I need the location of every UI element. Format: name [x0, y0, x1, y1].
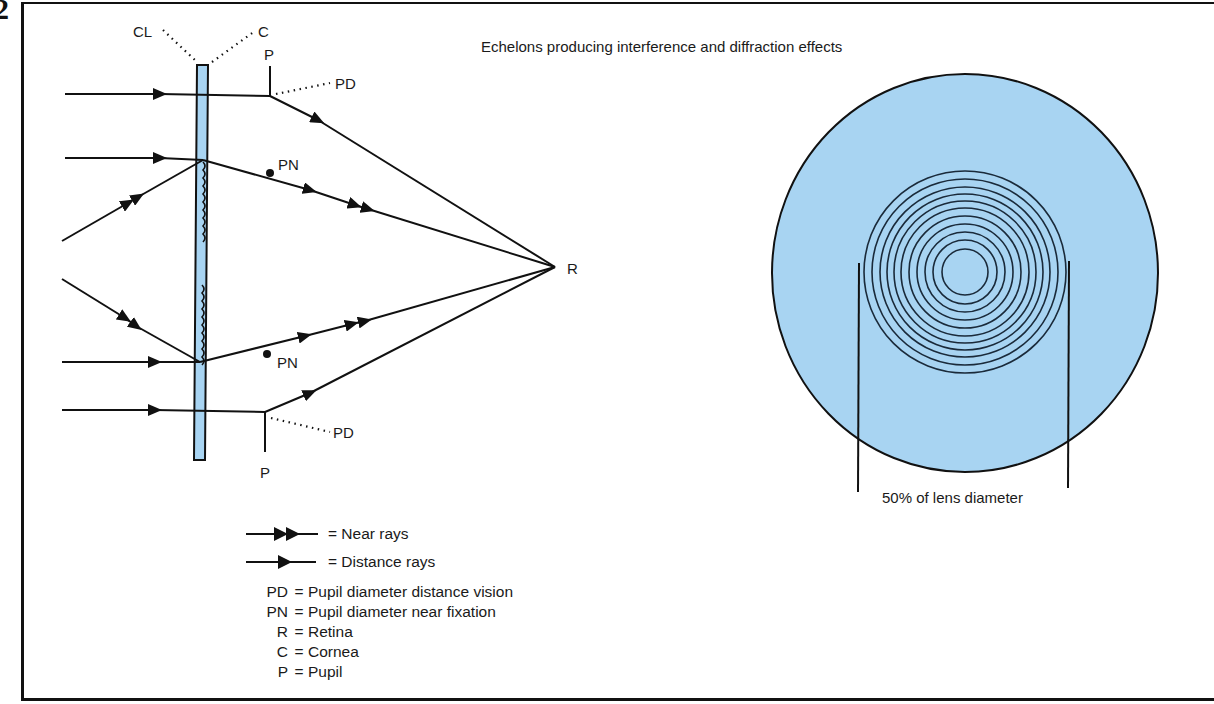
abbr-pd: PD = Pupil diameter distance vision: [246, 582, 513, 602]
label-retina: R: [567, 260, 578, 277]
abbr-pn: PN = Pupil diameter near fixation: [246, 602, 513, 622]
double-arrow-icon: [246, 527, 318, 541]
single-arrow-icon: [246, 555, 318, 569]
legend-near-rays: = Near rays: [246, 520, 513, 548]
legend-distance-rays: = Distance rays: [246, 548, 513, 576]
abbreviation-list: PD = Pupil diameter distance vision PN =…: [246, 582, 513, 682]
abbr-r: R = Retina: [246, 622, 513, 642]
figure-title: Echelons producing interference and diff…: [481, 38, 842, 55]
diameter-marker-left: [858, 263, 859, 492]
light-rays: [62, 94, 555, 412]
label-pupil-bottom: P: [260, 464, 270, 481]
lens-face: [772, 74, 1158, 492]
label-pd-top: PD: [335, 75, 356, 92]
legend: = Near rays = Distance rays PD = Pupil d…: [246, 520, 513, 682]
abbr-p: P = Pupil: [246, 662, 513, 682]
label-pn-bottom: PN: [277, 354, 298, 371]
label-pd-bottom: PD: [333, 424, 354, 441]
label-cl: CL: [133, 23, 152, 40]
label-pupil-top: P: [264, 46, 274, 63]
label-c: C: [258, 23, 269, 40]
diameter-marker-right: [1068, 261, 1069, 488]
lens-caption: 50% of lens diameter: [882, 489, 1023, 506]
label-pn-top: PN: [278, 156, 299, 173]
contact-lens: [194, 65, 208, 460]
abbr-c: C = Cornea: [246, 642, 513, 662]
